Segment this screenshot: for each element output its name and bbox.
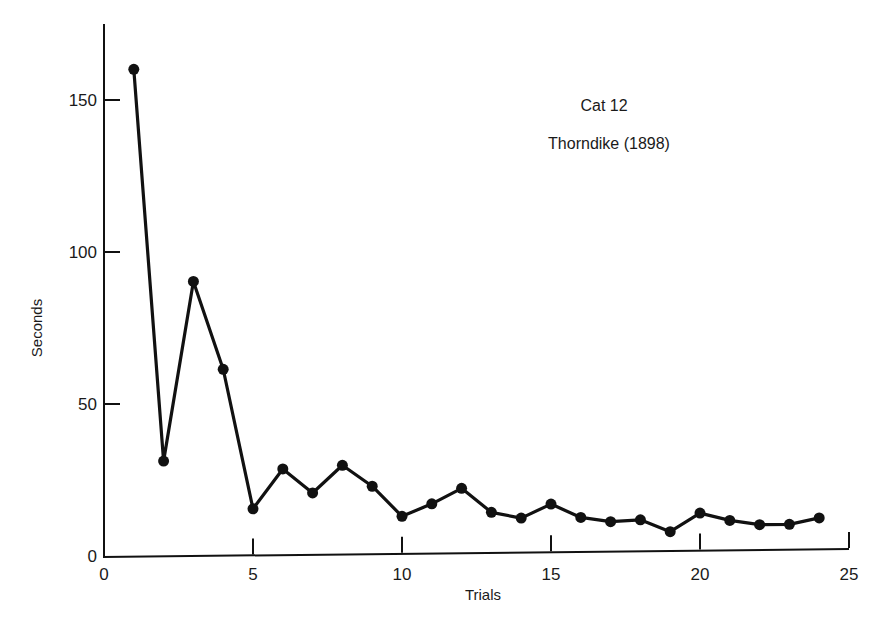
data-point-marker xyxy=(575,512,586,523)
x-axis-title: Trials xyxy=(465,586,501,603)
data-point-marker xyxy=(724,515,735,526)
annotation-source: Thorndike (1898) xyxy=(548,135,670,152)
data-point-marker xyxy=(307,487,318,498)
axes xyxy=(103,24,849,557)
x-tick-label: 25 xyxy=(840,565,859,584)
y-tick-label: 150 xyxy=(69,91,97,110)
y-ticks: 050100150 xyxy=(69,91,120,566)
x-tick-label: 20 xyxy=(691,565,710,584)
annotation-subject: Cat 12 xyxy=(580,97,627,114)
data-series xyxy=(128,64,824,537)
y-tick-label: 0 xyxy=(88,547,97,566)
data-point-marker xyxy=(337,460,348,471)
data-point-marker xyxy=(754,519,765,530)
data-point-marker xyxy=(218,364,229,375)
data-point-marker xyxy=(784,519,795,530)
data-point-marker xyxy=(367,481,378,492)
data-point-marker xyxy=(426,498,437,509)
data-point-marker xyxy=(546,499,557,510)
data-point-marker xyxy=(486,507,497,518)
series-line xyxy=(134,69,819,531)
learning-curve-chart: 050100150 0510152025 Cat 12 Thorndike (1… xyxy=(0,0,885,628)
data-point-marker xyxy=(695,508,706,519)
y-tick-label: 50 xyxy=(78,395,97,414)
data-point-marker xyxy=(605,516,616,527)
data-point-marker xyxy=(248,503,259,514)
data-point-marker xyxy=(158,456,169,467)
x-tick-label: 15 xyxy=(542,565,561,584)
y-tick-label: 100 xyxy=(69,243,97,262)
data-point-marker xyxy=(277,463,288,474)
data-point-marker xyxy=(456,483,467,494)
data-point-marker xyxy=(814,512,825,523)
x-axis xyxy=(103,549,849,557)
x-tick-label: 5 xyxy=(248,565,257,584)
y-axis-title: Seconds xyxy=(28,299,45,357)
x-ticks: 0510152025 xyxy=(99,532,858,584)
data-point-marker xyxy=(635,514,646,525)
data-point-marker xyxy=(516,513,527,524)
x-tick-label: 0 xyxy=(99,565,108,584)
x-tick-label: 10 xyxy=(393,565,412,584)
data-point-marker xyxy=(397,511,408,522)
data-point-marker xyxy=(665,526,676,537)
data-point-marker xyxy=(188,276,199,287)
data-point-marker xyxy=(128,64,139,75)
